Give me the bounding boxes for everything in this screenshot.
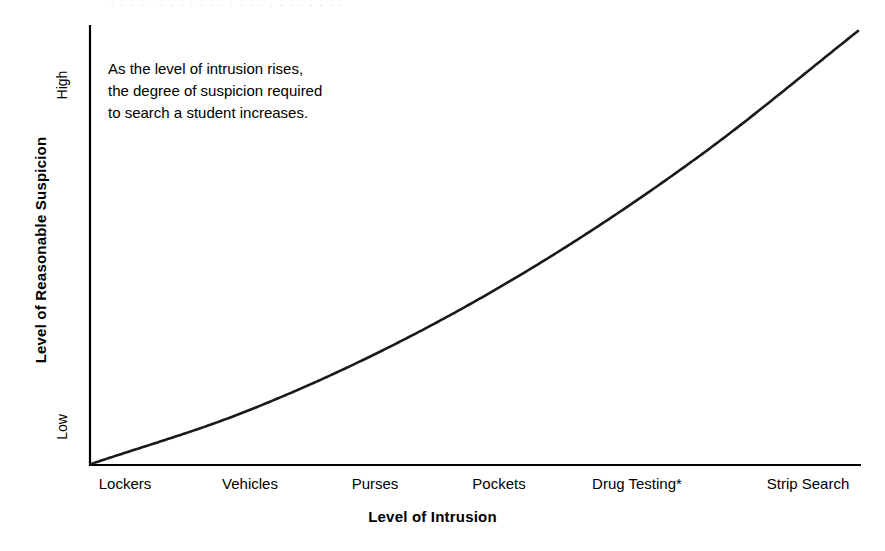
y-tick-label-low: Low <box>54 392 72 462</box>
y-axis-title: Level of Reasonable Suspicion <box>32 30 54 470</box>
x-tick-label-pockets: Pockets <box>472 475 525 492</box>
x-tick-label-lockers: Lockers <box>99 475 152 492</box>
x-tick-label-purses: Purses <box>352 475 399 492</box>
x-tick-label-vehicles: Vehicles <box>222 475 278 492</box>
x-tick-label-strip-search: Strip Search <box>767 475 850 492</box>
x-axis-title: Level of Intrusion <box>368 508 497 525</box>
x-axis-title-wrap: Level of Intrusion <box>0 508 885 525</box>
x-tick-label-drug-testing: Drug Testing* <box>592 475 682 492</box>
chart-annotation-text: As the level of intrusion rises, the deg… <box>108 58 438 124</box>
chart-figure: · · · · · · · · · · · · · · · · · · · · … <box>0 0 885 551</box>
y-tick-label-high: High <box>54 50 72 120</box>
